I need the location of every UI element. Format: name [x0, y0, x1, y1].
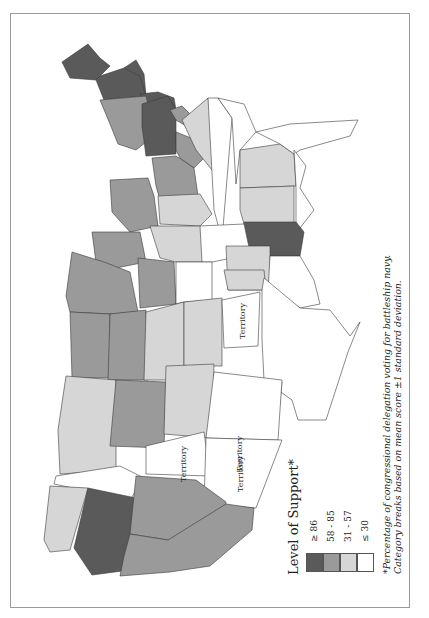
state-south-carolina [240, 144, 296, 188]
state-wyoming [110, 380, 166, 448]
state-florida-panhandle [294, 150, 314, 228]
state-south-dakota [108, 310, 148, 380]
state-colorado [164, 364, 214, 438]
state-georgia [240, 186, 294, 224]
state-kansas [184, 298, 222, 366]
state-montana [58, 376, 116, 474]
indian-territory [222, 292, 260, 348]
state-north-dakota [70, 312, 110, 378]
new-mexico-territory [206, 372, 282, 440]
state-pennsylvania [142, 96, 176, 156]
state-missouri [176, 262, 212, 304]
us-choropleth-map [0, 0, 429, 618]
state-iowa [138, 258, 176, 308]
state-maine [62, 44, 110, 80]
state-kentucky [208, 98, 232, 240]
state-indiana [158, 194, 212, 226]
state-michigan [110, 178, 158, 232]
state-arkansas [224, 270, 266, 290]
